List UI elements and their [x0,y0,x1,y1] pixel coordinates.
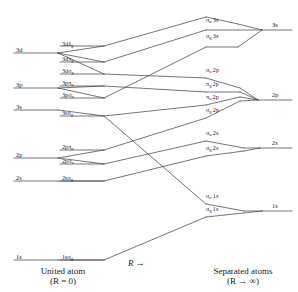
sa-mo-label-sigma-u-2s: σu 2s [206,130,218,138]
corr-3dsigma-g [104,74,206,78]
united-atom-level-3d: 3d [16,47,23,54]
corr-1ssigma-g [104,217,206,260]
corr-3ppi-u [104,86,206,92]
sa-mo-label-sigma-g-3s: σg 3s [206,33,218,41]
united-atom-level-1s: 1s [16,254,22,261]
sa-mo-label-pi-g-2p: πg 2p [206,81,219,89]
caption-united-atom-line1: United atom [8,266,118,276]
sa-mo-label-pi-u-2p: πu 2p [206,94,219,102]
corr-3ssigma-g [104,105,206,116]
sa-mo-label-sigma-u-3s: σu 3s [206,17,218,25]
sa-mo-label-sigma-g-1s: σg 1s [206,206,218,214]
mo-label-2p-sigma-u: 2pσu [62,158,74,166]
sa-mo-label-sigma-u-1s: σu 1s [206,193,218,201]
mo-label-1s-sigma-g: 1sσg [62,254,73,262]
caption-separated-atoms-line1: Separated atoms [188,266,298,276]
axis-label-R: R → [128,258,145,268]
mo-label-3d-pi-g: 3dπg [62,56,74,64]
corr-2ppi-u [104,118,206,150]
mo-label-2s-sigma-g: 2sσg [62,175,73,183]
united-atom-level-3s: 3s [16,104,22,111]
sa-mo-label-sigma-g-2p: σg 2p [206,107,219,115]
caption-united-atom: United atom (R = 0) [8,266,118,286]
united-atom-level-2s: 2s [16,175,22,182]
caption-separated-atoms: Separated atoms (R → ∞) [188,266,298,286]
corr-3dpi-g [104,30,206,62]
correlation-diagram: 3d 3p 3s 2p 2s 1s 3dδg 3dπg 3dσg 3pπu 3p… [0,0,298,292]
united-atom-level-3p: 3p [16,82,23,89]
caption-united-atom-line2: (R = 0) [8,276,118,286]
mo-label-3d-sigma-g: 3dσg [62,68,74,76]
diagram-lines [0,0,298,292]
mo-label-3d-delta-g: 3dδg [62,41,73,49]
mo-label-3p-sigma-u: 3pσu [62,92,74,100]
separated-atom-level-3s: 3s [272,22,278,29]
sa-mo-label-sigma-u-2p: σu 2p [206,67,219,75]
mo-label-2p-pi-u: 2pπu [62,144,74,152]
united-atom-level-2p: 2p [16,152,23,159]
separated-atom-level-2p: 2p [272,92,279,99]
separated-atom-level-1s: 1s [272,203,278,210]
separated-atom-level-2s: 2s [272,140,278,147]
corr-2psigma-u [104,141,206,164]
corr-3ddelta-g [104,17,206,46]
corr-3psigma-u [104,47,206,98]
caption-separated-atoms-line2: (R → ∞) [188,276,298,286]
mo-label-3s-sigma-g: 3sσg [62,110,73,118]
sa-mo-label-sigma-g-2s: σg 2s [206,145,218,153]
mo-label-3p-pi-u: 3pπu [62,80,74,88]
